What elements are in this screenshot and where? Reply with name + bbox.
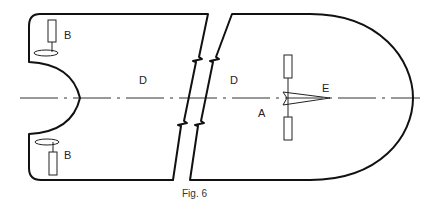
figure-caption: Fig. 6 <box>182 188 207 199</box>
right-panel-outline <box>190 14 413 180</box>
label-a: A <box>258 107 266 119</box>
b-component-top <box>34 20 58 56</box>
diagram-figure-6: B B D D A E Fig. 6 <box>0 0 438 207</box>
label-b-bottom: B <box>64 149 71 161</box>
label-d-right: D <box>230 74 238 86</box>
b-component-bottom <box>35 139 59 175</box>
label-b-top: B <box>64 29 71 41</box>
label-d-left: D <box>139 74 147 86</box>
label-e: E <box>322 82 329 94</box>
